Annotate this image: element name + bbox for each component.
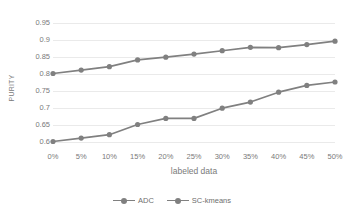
series-sc-kmeans [50,79,337,144]
x-tick-label: 35% [243,152,258,162]
x-tick-label: 40% [271,152,286,162]
data-point-marker [248,45,253,50]
y-tick-label: 0.95 [35,19,50,27]
data-point-marker [304,83,309,88]
data-point-marker [163,116,168,121]
data-point-marker [79,136,84,141]
y-tick-label: 0.85 [35,53,50,61]
data-point-marker [304,42,309,47]
data-point-marker [79,68,84,73]
data-point-marker [50,139,55,144]
legend-marker-icon [175,198,181,204]
data-point-marker [191,52,196,57]
x-axis-tick-labels: 0%5%10%15%20%25%30%35%40%45%50% [53,152,335,166]
plot-area [53,14,335,150]
x-tick-label: 15% [130,152,145,162]
legend-label: SC-kmeans [192,196,231,205]
data-point-marker [332,79,337,84]
series-line [53,82,335,142]
y-tick-label: 0.9 [40,36,50,44]
legend-entry-sc-kmeans[interactable]: SC-kmeans [167,196,231,205]
y-axis-tick-labels: 0.60.650.70.750.80.850.90.95 [22,14,50,150]
data-point-marker [191,116,196,121]
data-point-marker [220,106,225,111]
x-tick-label: 45% [299,152,314,162]
series-line [53,41,335,73]
data-point-marker [163,55,168,60]
y-tick-label: 0.65 [35,121,50,129]
data-point-marker [107,132,112,137]
data-point-marker [276,90,281,95]
data-point-marker [332,39,337,44]
plot-svg [53,14,335,150]
x-tick-label: 25% [186,152,201,162]
data-point-marker [248,99,253,104]
y-tick-label: 0.8 [40,70,50,78]
legend-marker-icon [121,198,127,204]
purity-vs-labeled-data-chart: PURITY 0.60.650.70.750.80.850.90.95 0%5%… [0,0,344,217]
series-adc [50,39,337,77]
x-tick-label: 50% [327,152,342,162]
data-point-marker [50,71,55,76]
data-point-marker [220,48,225,53]
data-point-marker [107,64,112,69]
x-tick-label: 30% [215,152,230,162]
x-axis-title: labeled data [53,166,335,176]
y-axis-title: PURITY [8,58,15,118]
legend-swatch-icon [167,197,189,205]
x-tick-label: 0% [48,152,59,162]
y-tick-label: 0.7 [40,104,50,112]
y-tick-label: 0.6 [40,138,50,146]
x-tick-label: 20% [158,152,173,162]
legend-swatch-icon [113,197,135,205]
legend-label: ADC [138,196,154,205]
data-point-marker [135,57,140,62]
legend-entry-adc[interactable]: ADC [113,196,154,205]
chart-legend: ADCSC-kmeans [0,196,344,205]
data-point-marker [276,45,281,50]
x-tick-label: 5% [76,152,87,162]
x-tick-label: 10% [102,152,117,162]
data-point-marker [135,122,140,127]
y-tick-label: 0.75 [35,87,50,95]
